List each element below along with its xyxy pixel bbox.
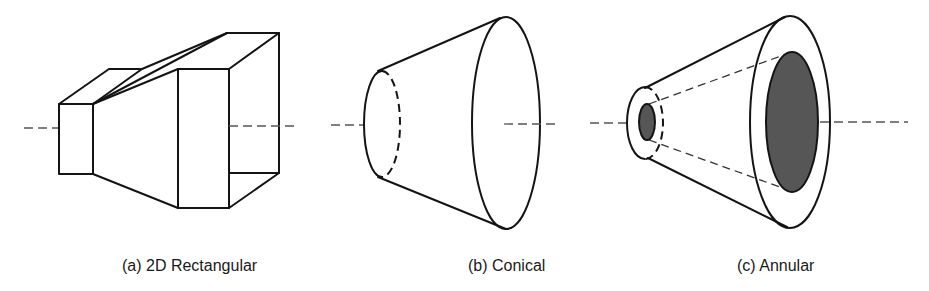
bottom-edge-large	[229, 173, 279, 208]
large-aperture	[472, 17, 540, 229]
caption-conical: (b) Conical	[468, 257, 545, 275]
small-aperture-hidden	[382, 71, 400, 177]
front-face-small	[59, 104, 93, 174]
small-aperture-front	[364, 71, 382, 177]
rectangular-horn	[24, 33, 298, 208]
figure-canvas	[0, 0, 929, 291]
caption-rectangular: (a) 2D Rectangular	[122, 257, 257, 275]
top-face-small	[59, 69, 142, 104]
cone-top-edge	[378, 18, 500, 71]
back-face-large	[227, 33, 279, 173]
cone-bottom-edge	[378, 177, 506, 229]
outer-top-edge	[645, 17, 785, 88]
front-face-large	[178, 69, 229, 208]
conical-horn	[331, 17, 556, 229]
bottom-plane-edge	[93, 174, 178, 208]
outer-bottom-edge	[648, 158, 787, 227]
caption-annular: (c) Annular	[737, 257, 814, 275]
top-plane-edge-1	[142, 33, 227, 69]
annular-horn	[590, 16, 908, 228]
small-inner-aperture	[639, 104, 655, 140]
top-edge-large	[229, 33, 279, 69]
